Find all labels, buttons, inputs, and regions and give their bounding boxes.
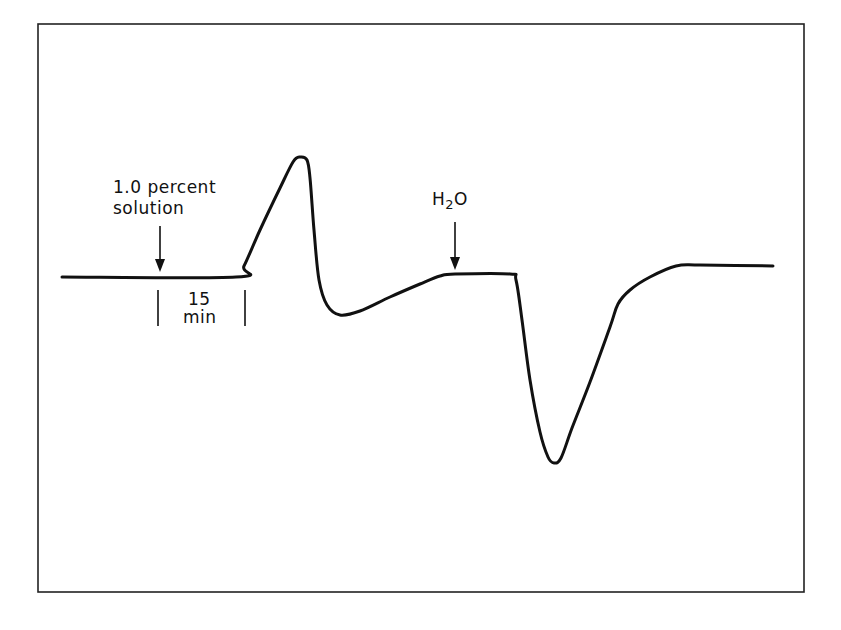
water-arrow-icon <box>450 222 460 270</box>
scale-unit-label: min <box>183 308 217 327</box>
solution-label-line1: 1.0 percent <box>113 178 216 197</box>
chart-figure <box>0 0 841 630</box>
water-label-o: O <box>454 189 468 209</box>
figure-frame <box>38 24 804 592</box>
water-label: H2O <box>432 190 468 210</box>
water-label-h: H <box>432 189 445 209</box>
water-label-subscript: 2 <box>445 197 454 212</box>
solution-label-line2: solution <box>113 199 184 218</box>
solution-arrow-icon <box>155 226 165 272</box>
